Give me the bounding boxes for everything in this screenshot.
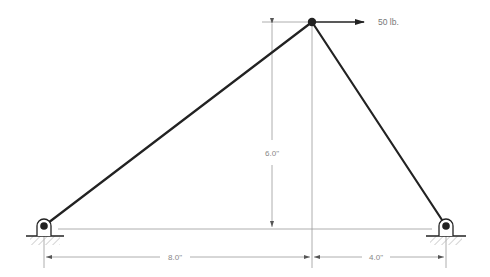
apex-joint-icon xyxy=(308,18,316,26)
right-span-dimension-label: 4.0" xyxy=(369,253,383,262)
left-pin-support-icon xyxy=(26,219,64,245)
left-span-dimension-label: 8.0" xyxy=(168,253,182,262)
load-arrow: 50 lb. xyxy=(312,17,399,27)
extension-lines xyxy=(44,22,446,268)
right-pin-support-icon xyxy=(426,219,466,245)
truss-members xyxy=(44,22,446,226)
load-label: 50 lb. xyxy=(378,17,399,27)
right-span-dimension: 4.0" xyxy=(314,253,444,262)
height-dimension: 6.0" xyxy=(265,24,279,227)
left-span-dimension: 8.0" xyxy=(46,253,310,262)
height-dimension-label: 6.0" xyxy=(265,149,279,158)
member-bc xyxy=(312,22,446,226)
truss-diagram: 6.0" 8.0" 4.0" 50 lb. xyxy=(0,0,490,277)
